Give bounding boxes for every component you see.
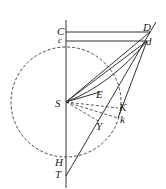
label-d: d xyxy=(146,36,152,47)
line-Sd xyxy=(66,41,147,102)
dashed-line-Sk xyxy=(66,102,118,118)
dashed-line-SK xyxy=(66,102,118,108)
diagram-canvas xyxy=(0,0,166,189)
label-E: E xyxy=(96,89,103,100)
geometry-diagram: C c D d S E K k Y H T xyxy=(0,0,166,189)
label-c: c xyxy=(58,36,62,45)
label-k: k xyxy=(120,114,125,125)
label-K: K xyxy=(119,102,126,113)
label-T: T xyxy=(55,169,61,180)
dashed-line-SY xyxy=(66,102,100,122)
label-Y: Y xyxy=(96,121,102,132)
line-TD xyxy=(66,22,156,176)
label-H: H xyxy=(55,157,63,168)
label-D: D xyxy=(143,22,151,33)
line-SE xyxy=(66,92,100,102)
label-S: S xyxy=(55,98,61,109)
